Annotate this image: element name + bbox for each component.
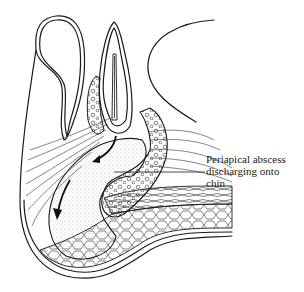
annotation-line-3: chin — [206, 177, 286, 189]
annotation-line-2: discharging onto — [206, 165, 286, 177]
abscess-diagram — [0, 0, 304, 292]
tongue — [148, 20, 214, 122]
lower-lip — [36, 16, 85, 140]
incisor-tooth — [99, 22, 132, 133]
annotation-label: Periapical abscess discharging onto chin — [206, 153, 286, 189]
annotation-line-1: Periapical abscess — [206, 153, 286, 165]
